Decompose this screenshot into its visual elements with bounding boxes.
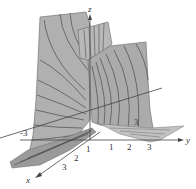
y-arrow-icon: [178, 138, 184, 142]
z-axis-label: z: [87, 4, 92, 14]
x-tick-3: 3: [62, 162, 67, 172]
y-axis-label: y: [185, 135, 190, 145]
x-axis-label: x: [25, 175, 30, 185]
x-arrow-icon: [35, 172, 42, 178]
surface-right-sheet: [88, 42, 155, 140]
y-tick-neg3: -3: [20, 128, 28, 138]
y-tick-1: 1: [109, 142, 114, 152]
x-tick-1: 1: [86, 144, 91, 154]
x-tick-2: 2: [74, 153, 79, 163]
surface-plot: z y x -3 1 2 3 1 2 3 3: [0, 0, 196, 189]
y-tick-2: 2: [127, 142, 132, 152]
z-arrow-icon: [88, 14, 92, 20]
y-tick-3: 3: [147, 142, 152, 152]
diagonal-tick-3: 3: [134, 117, 139, 127]
